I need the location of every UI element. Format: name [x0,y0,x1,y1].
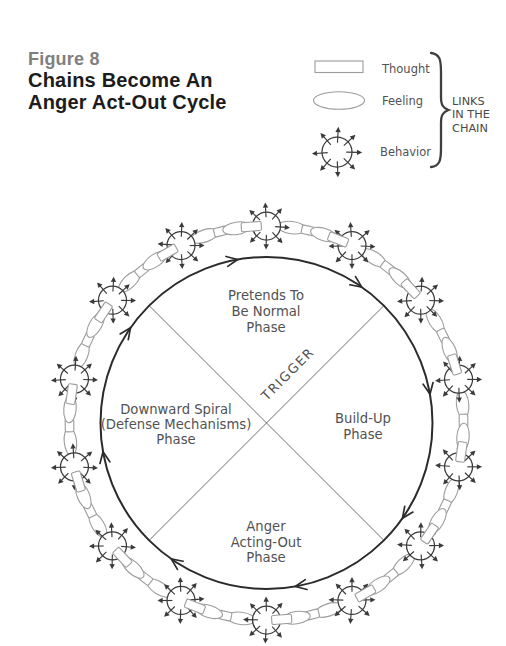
phase-label-line: Acting-Out [231,535,302,550]
arrowhead-icon [89,299,95,305]
arrowhead-icon [263,244,268,249]
arrow-shaft [439,380,450,381]
behavior-link-icon [328,577,375,624]
arrow-shaft [421,554,422,565]
behavior-link-icon [312,127,363,178]
arrowhead-icon [131,544,137,550]
arrowhead-icon [418,318,423,323]
brace-label: LINKS IN THE CHAIN [452,95,490,135]
arrowhead-icon [312,151,318,157]
arrow-shaft [337,131,338,143]
arrowhead-icon [418,522,423,527]
arrowhead-icon [199,243,204,248]
phase-label-bottom: AngerActing-OutPhase [231,519,302,565]
arrowhead-icon [93,465,98,471]
thought-shape [241,221,262,232]
arrow-shaft [55,380,66,381]
phase-label-line: Downward Spiral [120,402,232,417]
thought-shape [271,614,292,625]
arrow-shaft [93,301,104,302]
phase-label-line: Pretends To [228,288,304,303]
arrowhead-icon [349,577,354,582]
arrow-shaft [113,280,114,291]
feeling-legend-icon [314,92,365,109]
phase-labels: Pretends ToBe NormalPhaseBuild-UpPhaseAn… [101,288,391,565]
behavior-link-icon [157,222,204,269]
arrowhead-icon [109,522,115,527]
arrow-shaft [121,546,132,547]
arrowhead-icon [328,597,333,603]
arrowhead-icon [263,638,269,643]
arrowhead-icon [349,264,354,269]
arrowhead-icon [435,378,441,384]
arrowhead-icon [178,619,184,624]
arrow-shaft [265,629,266,640]
legend-label-thought: Thought [382,62,430,76]
arrowhead-icon [370,244,375,250]
phase-label-line: Phase [156,432,195,447]
trigger-label: TRIGGER [258,344,318,404]
legend-label-feeling: Feeling [382,94,423,108]
arrowhead-icon [397,298,402,304]
arrow-shaft [401,301,412,302]
arrowhead-icon [357,150,362,155]
arrowhead-icon [131,298,136,303]
phase-label-line: Phase [343,427,382,442]
arrow-shaft [111,526,112,537]
arrow-shaft [181,254,182,265]
brace-icon [431,53,449,167]
arrowhead-icon [51,377,56,383]
phase-label-line: Be Normal [231,304,300,319]
arrowhead-icon [263,202,269,207]
phase-label-line: Phase [246,320,285,335]
arrowhead-icon [93,377,98,383]
arrowhead-icon [179,264,185,269]
brace-label-line-1: LINKS [452,95,490,108]
arrowhead-icon [477,464,482,469]
arrow-shaft [275,227,286,228]
arrowhead-icon [348,222,354,228]
arrowhead-icon [477,377,482,382]
arrow-shaft [265,206,266,217]
arrowhead-icon [178,577,184,582]
arrowhead-icon [328,243,333,249]
arrow-shaft [83,467,94,468]
arrow-shaft [351,609,352,620]
phase-label-line: (Defense Mechanisms) [101,417,252,432]
arrowhead-icon [263,596,268,601]
thought-link [241,221,262,232]
arrowhead-icon [370,597,375,603]
arrow-shaft [421,280,422,291]
arrow-shaft [161,244,172,245]
arrowhead-icon [397,542,402,548]
arrow-shaft [351,226,352,237]
arrowhead-icon [110,318,116,323]
phase-label-right: Build-UpPhase [335,411,391,442]
arrowhead-icon [51,465,56,471]
arrowhead-icon [435,463,441,469]
cycle-diagram: Pretends ToBe NormalPhaseBuild-UpPhaseAn… [0,0,506,646]
phase-label-left: Downward Spiral(Defense Mechanisms)Phase [101,402,252,447]
arrowhead-icon [179,222,185,227]
phase-label-top: Pretends ToBe NormalPhase [228,288,304,335]
thought-link [271,614,292,625]
arrow-shaft [459,476,460,487]
legend-label-behavior: Behavior [380,145,431,159]
arrow-shaft [75,359,76,370]
arrowhead-icon [348,619,354,625]
phase-label-line: Anger [246,519,286,534]
figure-page: Figure 8 Chains Become An Anger Act-Out … [0,0,506,646]
brace-label-line-3: CHAIN [452,122,490,135]
arrow-shaft [73,447,74,458]
phase-label-line: Build-Up [335,411,391,426]
arrow-shaft [361,246,372,247]
arrowhead-icon [157,241,163,247]
arrowhead-icon [89,543,94,548]
arrow-shaft [439,465,450,466]
arrowhead-icon [419,277,425,283]
arrow-shaft [401,545,412,546]
arrowhead-icon [335,172,341,177]
arrowhead-icon [419,564,425,570]
arrowhead-icon [109,564,114,569]
arrowhead-icon [439,298,444,304]
